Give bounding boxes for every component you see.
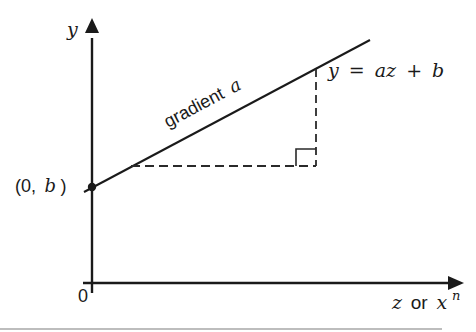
equation-equals: = [349,59,365,81]
equation-lhs: y [327,59,339,81]
equation-term1: az [375,59,397,81]
x-axis-label-exponent: n [452,288,460,303]
origin-label: 0 [78,286,88,306]
equation-term2: b [432,59,444,81]
y-axis-arrowhead-icon [85,18,99,33]
gradient-label: gradient a [160,73,244,131]
line-equation: y = az + b [327,59,444,81]
intercept-point [88,183,96,191]
intercept-label-var: b [45,175,57,196]
equation-plus: + [406,59,422,81]
x-axis-label-or: or [411,292,429,313]
intercept-label-open: (0, [15,176,36,196]
y-axis-label: y [66,18,78,40]
intercept-label: (0, b ) [15,175,67,196]
x-axis-label-z: z [391,291,403,313]
x-axis-label: z or x n [391,288,460,313]
x-axis-label-x: x [436,291,447,313]
linear-graph-diagram: y 0 (0, b ) gradient a y = az + b z or x… [0,0,476,332]
right-angle-marker [296,149,316,166]
intercept-label-close: ) [61,176,67,196]
gradient-label-symbol: a [225,73,244,97]
gradient-label-text: gradient [160,83,227,131]
